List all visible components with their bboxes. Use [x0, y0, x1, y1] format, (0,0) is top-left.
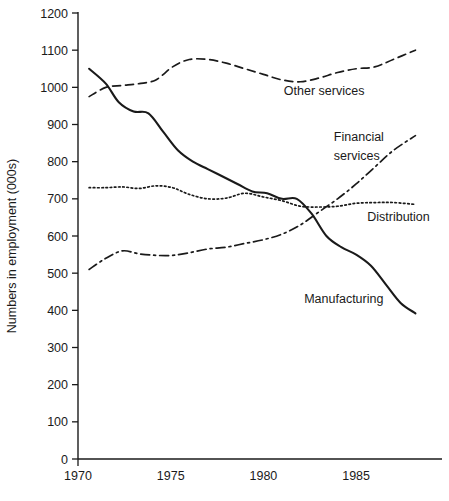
series-annotation: services — [334, 149, 380, 163]
y-axis-tick-label: 500 — [47, 267, 68, 281]
series-annotation: Other services — [284, 84, 365, 98]
y-axis-tick-label: 1200 — [40, 7, 68, 21]
y-axis-title: Numbers in employment (000s) — [5, 159, 19, 333]
y-axis-tick-label: 1000 — [40, 81, 68, 95]
y-axis-tick-label: 900 — [47, 118, 68, 132]
y-axis-tick-label: 200 — [47, 378, 68, 392]
y-axis-tick-label: 100 — [47, 415, 68, 429]
x-axis-tick-label: 1980 — [249, 469, 277, 483]
series-annotation: Manufacturing — [304, 292, 383, 306]
y-axis-tick-label: 700 — [47, 192, 68, 206]
y-axis-tick-label: 600 — [47, 230, 68, 244]
chart-canvas: 0100200300400500600700800900100011001200… — [0, 0, 449, 501]
series-annotation: Distribution — [367, 210, 430, 224]
y-axis-tick-label: 0 — [61, 453, 68, 467]
y-axis-tick-label: 800 — [47, 155, 68, 169]
series-annotation: Financial — [334, 130, 384, 144]
x-axis-tick-label: 1970 — [64, 469, 92, 483]
x-axis-tick-label: 1975 — [157, 469, 185, 483]
y-axis-tick-label: 1100 — [41, 44, 68, 58]
y-axis-tick-label: 300 — [47, 341, 68, 355]
y-axis-tick-label: 400 — [47, 304, 68, 318]
x-axis-tick-label: 1985 — [342, 469, 370, 483]
employment-line-chart: 0100200300400500600700800900100011001200… — [0, 0, 449, 501]
